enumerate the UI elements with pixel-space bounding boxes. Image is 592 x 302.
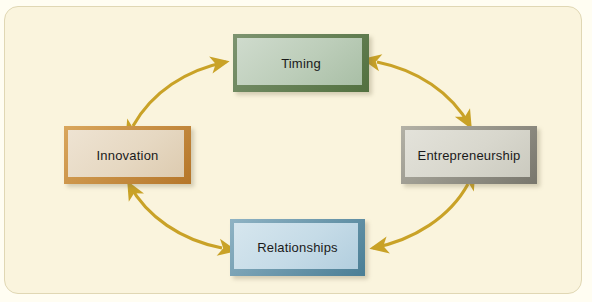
node-timing[interactable]: Timing	[233, 34, 369, 92]
connector-timing-entrepreneurship	[377, 62, 470, 126]
node-relationships[interactable]: Relationships	[230, 219, 365, 276]
node-innovation-label: Innovation	[97, 148, 159, 163]
node-entrepreneurship-label: Entrepreneurship	[418, 148, 521, 163]
connector-relationships-innovation	[129, 184, 222, 248]
node-entrepreneurship[interactable]: Entrepreneurship	[401, 126, 537, 184]
node-timing-label: Timing	[281, 56, 321, 71]
connector-entrepreneurship-relationships	[373, 184, 468, 248]
cycle-diagram: Timing Innovation Entrepreneurship Relat…	[0, 0, 592, 302]
node-innovation[interactable]: Innovation	[64, 126, 191, 184]
node-relationships-label: Relationships	[257, 240, 338, 255]
connector-innovation-timing	[133, 62, 226, 126]
